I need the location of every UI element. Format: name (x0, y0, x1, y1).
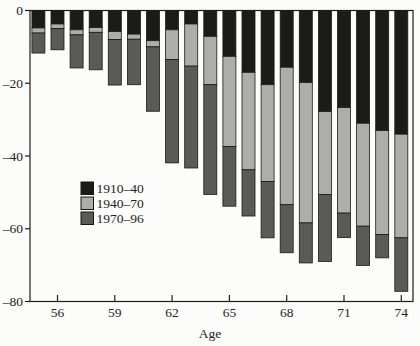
bar-segment-1940-70 (89, 28, 102, 33)
bar-age-67 (261, 11, 274, 238)
bar-segment-1940-70 (357, 123, 370, 226)
bar-segment-1910-40 (261, 11, 274, 85)
bar-segment-1910-40 (223, 11, 236, 57)
bar-age-64 (204, 11, 217, 195)
legend-swatch (81, 182, 94, 195)
x-tick-label: 71 (337, 305, 351, 320)
bar-age-66 (242, 11, 255, 217)
bar-segment-1970-96 (242, 170, 255, 216)
bar-segment-1970-96 (299, 223, 312, 263)
bar-age-59 (108, 11, 121, 86)
legend-label: 1970–96 (97, 211, 145, 226)
bar-segment-1970-96 (89, 32, 102, 69)
x-axis-title: Age (199, 326, 222, 341)
bar-age-70 (318, 11, 331, 262)
bar-segment-1940-70 (395, 134, 408, 238)
bar-segment-1910-40 (51, 11, 64, 24)
bar-age-56 (51, 11, 64, 50)
bar-age-72 (357, 11, 370, 266)
y-tick-label: –20 (2, 76, 24, 91)
legend-label: 1910–40 (97, 181, 145, 196)
bar-segment-1970-96 (108, 40, 121, 85)
x-tick-label: 68 (280, 305, 294, 320)
x-tick-label: 56 (51, 305, 65, 320)
bar-segment-1910-40 (242, 11, 255, 73)
bar-segment-1970-96 (32, 33, 45, 53)
bar-segment-1970-96 (223, 147, 236, 207)
bar-segment-1910-40 (204, 11, 217, 37)
legend: 1910–401940–701970–96 (81, 181, 144, 226)
bar-age-61 (147, 11, 160, 112)
bar-segment-1910-40 (299, 11, 312, 83)
bar-segment-1970-96 (395, 238, 408, 291)
bar-segment-1940-70 (127, 34, 140, 39)
bar-age-65 (223, 11, 236, 207)
bar-segment-1910-40 (338, 11, 351, 108)
bar-segment-1970-96 (70, 35, 83, 68)
bar-segment-1940-70 (223, 56, 236, 146)
bar-age-55 (32, 11, 45, 54)
bar-segment-1970-96 (185, 66, 198, 168)
bar-age-62 (166, 11, 179, 163)
bar-segment-1910-40 (127, 11, 140, 35)
bar-segment-1940-70 (108, 32, 121, 40)
bar-segment-1970-96 (127, 39, 140, 84)
bar-segment-1970-96 (376, 235, 389, 258)
bar-segment-1910-40 (357, 11, 370, 124)
bar-segment-1910-40 (108, 11, 121, 32)
bar-segment-1970-96 (204, 85, 217, 195)
bar-segment-1940-70 (51, 24, 64, 29)
bar-segment-1970-96 (261, 181, 274, 237)
x-tick-label: 65 (223, 305, 237, 320)
y-tick-label: 0 (16, 3, 23, 18)
bar-age-63 (185, 11, 198, 169)
bar-segment-1940-70 (204, 36, 217, 84)
legend-label: 1940–70 (97, 196, 145, 211)
x-tick-label: 74 (395, 305, 409, 320)
bar-segment-1910-40 (166, 11, 179, 30)
bar-segment-1970-96 (280, 205, 293, 253)
bar-segment-1910-40 (147, 11, 160, 41)
bar-segment-1910-40 (32, 11, 45, 28)
y-tick-label: –40 (2, 149, 24, 164)
x-tick-label: 59 (108, 305, 122, 320)
bar-age-74 (395, 11, 408, 292)
bar-age-68 (280, 11, 293, 253)
bar-segment-1910-40 (89, 11, 102, 28)
bar-segment-1970-96 (166, 60, 179, 163)
bar-segment-1940-70 (376, 131, 389, 235)
chart-figure: 0–20–40–60–8056596265687174Age1910–40194… (0, 0, 420, 346)
bar-segment-1910-40 (280, 11, 293, 68)
bar-segment-1940-70 (318, 112, 331, 195)
bar-segment-1940-70 (299, 83, 312, 223)
stacked-bar-chart: 0–20–40–60–8056596265687174Age1910–40194… (0, 0, 420, 346)
legend-swatch (81, 212, 94, 225)
y-tick-label: –80 (2, 294, 24, 309)
bar-segment-1910-40 (376, 11, 389, 131)
bar-segment-1940-70 (185, 24, 198, 66)
bar-age-71 (338, 11, 351, 238)
bar-segment-1970-96 (147, 47, 160, 111)
bar-segment-1970-96 (318, 195, 331, 262)
y-tick-label: –60 (2, 221, 24, 236)
bar-age-57 (70, 11, 83, 68)
legend-swatch (81, 197, 94, 210)
bar-segment-1940-70 (242, 72, 255, 169)
bar-segment-1940-70 (70, 30, 83, 35)
bar-segment-1970-96 (357, 226, 370, 265)
bar-segment-1970-96 (338, 213, 351, 237)
bar-segment-1940-70 (32, 28, 45, 33)
bar-age-69 (299, 11, 312, 263)
bar-segment-1970-96 (51, 29, 64, 50)
bar-age-58 (89, 11, 102, 70)
bar-segment-1940-70 (261, 85, 274, 182)
bar-segment-1940-70 (166, 30, 179, 60)
bar-segment-1910-40 (395, 11, 408, 135)
x-tick-label: 62 (165, 305, 179, 320)
bar-segment-1910-40 (70, 11, 83, 30)
bar-segment-1910-40 (318, 11, 331, 112)
bar-segment-1940-70 (147, 41, 160, 47)
bar-segment-1940-70 (338, 108, 351, 213)
bar-age-73 (376, 11, 389, 258)
bar-age-60 (127, 11, 140, 85)
